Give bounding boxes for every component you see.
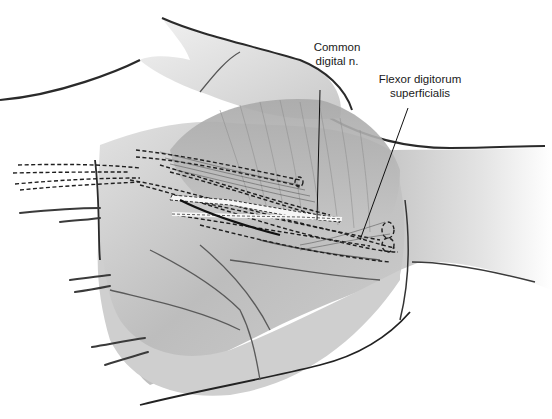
anatomical-illustration: Common digital n. Flexor digitorum super… (0, 0, 552, 419)
label-line: superficialis (368, 86, 472, 100)
label-line: Flexor digitorum (368, 72, 472, 86)
label-flexor-digitorum-superficialis: Flexor digitorum superficialis (368, 72, 472, 100)
forearm (380, 148, 552, 290)
hand-drawing (0, 0, 552, 419)
label-common-digital-nerve: Common digital n. (307, 40, 367, 68)
label-line: Common (307, 40, 367, 54)
label-line: digital n. (307, 54, 367, 68)
